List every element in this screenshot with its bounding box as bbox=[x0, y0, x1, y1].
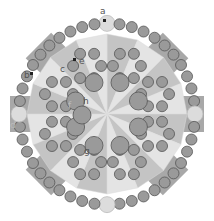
bead bbox=[96, 157, 107, 168]
label-c: c bbox=[60, 64, 65, 74]
label-e: e bbox=[79, 56, 85, 66]
bead bbox=[149, 32, 160, 43]
marker-a bbox=[103, 19, 106, 22]
bead bbox=[168, 49, 179, 60]
bead bbox=[75, 169, 86, 180]
bead bbox=[17, 134, 28, 145]
bead bbox=[128, 144, 139, 155]
bead bbox=[68, 60, 79, 71]
bead bbox=[89, 19, 100, 30]
bead bbox=[164, 89, 175, 100]
bead bbox=[77, 195, 88, 206]
bead bbox=[143, 76, 154, 87]
bead bbox=[126, 22, 137, 33]
bead bbox=[149, 185, 160, 196]
bead bbox=[14, 96, 25, 107]
bead bbox=[143, 141, 154, 152]
label-h: h bbox=[83, 96, 89, 106]
bead bbox=[182, 71, 193, 82]
bead bbox=[157, 141, 168, 152]
bead bbox=[14, 121, 25, 132]
bead bbox=[46, 141, 57, 152]
bead bbox=[182, 146, 193, 157]
bead bbox=[39, 128, 50, 139]
bead bbox=[89, 169, 100, 180]
bead bbox=[85, 74, 103, 92]
bead bbox=[189, 121, 200, 132]
bead bbox=[21, 146, 32, 157]
bead bbox=[157, 76, 168, 87]
bead bbox=[68, 157, 79, 168]
bead bbox=[176, 158, 187, 169]
marker-e bbox=[73, 58, 76, 61]
bead bbox=[46, 101, 57, 112]
bead bbox=[164, 128, 175, 139]
bead bbox=[77, 22, 88, 33]
light-bead bbox=[187, 106, 203, 122]
bead bbox=[189, 96, 200, 107]
bead bbox=[27, 59, 38, 70]
bead bbox=[27, 158, 38, 169]
bead bbox=[129, 92, 147, 110]
bead bbox=[157, 116, 168, 127]
bead bbox=[128, 169, 139, 180]
light-bead bbox=[99, 197, 115, 213]
bead bbox=[44, 40, 55, 51]
bead bbox=[107, 157, 118, 168]
bead bbox=[54, 185, 65, 196]
bead bbox=[176, 59, 187, 70]
octagon-layer bbox=[27, 34, 187, 194]
bead bbox=[65, 191, 76, 202]
bead bbox=[73, 106, 91, 124]
bead bbox=[39, 89, 50, 100]
bead bbox=[157, 101, 168, 112]
bead bbox=[114, 198, 125, 209]
bead bbox=[89, 198, 100, 209]
bead bbox=[186, 83, 197, 94]
label-d: d bbox=[10, 120, 16, 130]
light-bead bbox=[99, 15, 115, 31]
bead bbox=[114, 19, 125, 30]
bead bbox=[75, 73, 86, 84]
bead bbox=[46, 116, 57, 127]
bead bbox=[107, 60, 118, 71]
bead bbox=[138, 191, 149, 202]
bead bbox=[46, 76, 57, 87]
bead bbox=[159, 177, 170, 188]
label-g: g bbox=[84, 146, 90, 156]
bead bbox=[89, 48, 100, 59]
bead bbox=[35, 49, 46, 60]
bead bbox=[128, 73, 139, 84]
bead bbox=[17, 83, 28, 94]
bead bbox=[135, 157, 146, 168]
label-a: a bbox=[100, 6, 106, 16]
bead bbox=[111, 136, 129, 154]
bead bbox=[114, 169, 125, 180]
bead bbox=[44, 177, 55, 188]
bead bbox=[60, 76, 71, 87]
bead bbox=[159, 40, 170, 51]
bead bbox=[138, 26, 149, 37]
label-b: b bbox=[24, 70, 30, 80]
diagram-canvas: a b c d e f g h bbox=[0, 0, 214, 221]
bead bbox=[126, 195, 137, 206]
bead bbox=[111, 74, 129, 92]
bead bbox=[65, 26, 76, 37]
bead bbox=[35, 168, 46, 179]
bead bbox=[168, 168, 179, 179]
bead bbox=[96, 60, 107, 71]
marker-b bbox=[30, 72, 33, 75]
diagram: a b c d e f g h bbox=[0, 0, 214, 221]
bead bbox=[54, 32, 65, 43]
bead bbox=[129, 118, 147, 136]
bead bbox=[60, 141, 71, 152]
bead bbox=[114, 48, 125, 59]
bead bbox=[135, 60, 146, 71]
bead bbox=[186, 134, 197, 145]
bead bbox=[128, 48, 139, 59]
